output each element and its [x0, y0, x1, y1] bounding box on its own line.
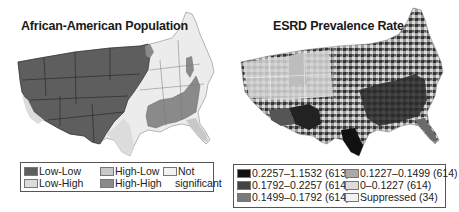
- legend-label: significant: [175, 178, 222, 189]
- legend-item-high-low: High-Low: [100, 166, 159, 177]
- legend-item-bin-5: 0–0.1227 (614): [345, 180, 431, 191]
- map-title: African-American Population: [21, 19, 188, 33]
- legend-swatch: [100, 179, 114, 188]
- legend-item-low-high: Low-High: [24, 178, 83, 189]
- esrd-prevalence-panel: ESRD Prevalence Rate 0.2257–1.1532 (613)…: [229, 0, 459, 212]
- population-legend: Low-Low High-Low Not Low-High High-High …: [20, 162, 214, 192]
- legend-swatch: [24, 167, 38, 176]
- legend-swatch: [237, 193, 251, 202]
- legend-swatch: [24, 179, 38, 188]
- legend-label: 0.1499–0.1792 (614): [252, 192, 350, 203]
- legend-swatch: [163, 167, 177, 176]
- legend-label: 0.2257–1.1532 (613): [252, 168, 350, 179]
- legend-item-suppressed: Suppressed (34): [345, 192, 438, 203]
- legend-swatch: [345, 193, 359, 202]
- legend-item-not-significant-cont: significant: [175, 178, 222, 189]
- legend-label: Low-High: [39, 178, 83, 189]
- legend-swatch: [345, 181, 359, 190]
- legend-swatch: [100, 167, 114, 176]
- legend-label: High-High: [115, 178, 162, 189]
- map-title: ESRD Prevalence Rate: [273, 19, 404, 33]
- legend-label: Low-Low: [39, 166, 81, 177]
- legend-item-bin-3: 0.1499–0.1792 (614): [237, 192, 350, 203]
- legend-label: Not: [178, 166, 194, 177]
- legend-item-bin-4: 0.1227–0.1499 (614): [345, 168, 458, 179]
- legend-swatch: [345, 169, 359, 178]
- legend-label: High-Low: [115, 166, 159, 177]
- legend-label: 0.1792–0.2257 (614): [252, 180, 350, 191]
- legend-item-bin-1: 0.2257–1.1532 (613): [237, 168, 350, 179]
- legend-item-high-high: High-High: [100, 178, 162, 189]
- legend-swatch: [237, 169, 251, 178]
- legend-label: 0–0.1227 (614): [360, 180, 431, 191]
- legend-label: 0.1227–0.1499 (614): [360, 168, 458, 179]
- legend-item-low-low: Low-Low: [24, 166, 81, 177]
- african-american-population-panel: African-American Population Low-Low High…: [0, 0, 229, 212]
- esrd-legend: 0.2257–1.1532 (613) 0.1792–0.2257 (614) …: [233, 164, 446, 208]
- legend-item-not-significant: Not: [163, 166, 194, 177]
- legend-label: Suppressed (34): [360, 192, 438, 203]
- legend-item-bin-2: 0.1792–0.2257 (614): [237, 180, 350, 191]
- legend-swatch: [237, 181, 251, 190]
